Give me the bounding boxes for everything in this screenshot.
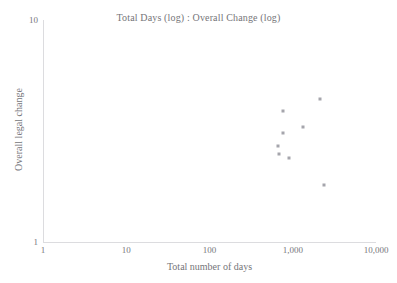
data-point: [322, 184, 325, 187]
data-point: [319, 98, 322, 101]
data-point: [276, 145, 279, 148]
data-point: [288, 156, 291, 159]
data-point: [282, 109, 285, 112]
x-tick-label: 10: [122, 245, 131, 255]
x-tick-label: 100: [203, 245, 217, 255]
data-point: [277, 152, 280, 155]
x-axis-title: Total number of days: [43, 261, 376, 272]
y-axis-title: Overall legal change: [13, 50, 24, 210]
x-axis-line: [43, 242, 376, 243]
data-point: [282, 131, 285, 134]
x-tick-label: 10,000: [364, 245, 389, 255]
plot-area: [43, 20, 376, 242]
data-point: [302, 125, 305, 128]
scatter-chart: Total Days (log) : Overall Change (log) …: [0, 0, 397, 283]
y-tick-label: 10: [29, 15, 38, 25]
y-tick-label: 1: [34, 237, 39, 247]
x-tick-label: 1,000: [283, 245, 303, 255]
x-tick-label: 1: [41, 245, 46, 255]
